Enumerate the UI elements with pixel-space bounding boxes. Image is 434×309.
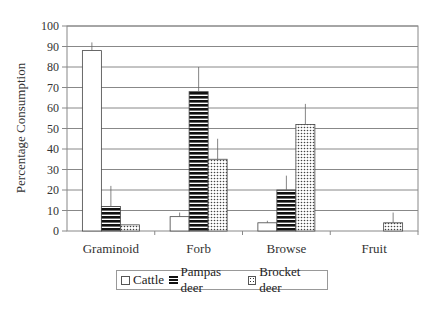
brocket-deer-swatch-icon <box>248 276 257 285</box>
gridlines <box>67 26 418 211</box>
legend-label: Pampas deer <box>181 264 243 296</box>
bar <box>384 223 403 231</box>
y-tick-label: 0 <box>53 224 59 238</box>
category-label: Fruit <box>361 241 387 256</box>
category-label: Browse <box>267 241 307 256</box>
category-label: Forb <box>186 241 211 256</box>
y-tick-label: 100 <box>41 19 59 33</box>
cattle-swatch-icon <box>121 276 130 285</box>
y-tick-label: 10 <box>47 204 59 218</box>
category-label: Graminoid <box>83 241 140 256</box>
y-tick-label: 30 <box>47 163 59 177</box>
y-tick-label: 60 <box>47 101 59 115</box>
bar <box>82 51 101 231</box>
bar <box>120 225 139 231</box>
bars <box>82 42 402 231</box>
legend-label: Brocket deer <box>259 264 322 296</box>
y-tick-label: 70 <box>47 81 59 95</box>
y-tick-label: 90 <box>47 40 59 54</box>
bar-chart: 0102030405060708090100 GraminoidForbBrow… <box>0 0 434 309</box>
y-tick-label: 40 <box>47 142 59 156</box>
legend: Cattle Pampas deer Brocket deer <box>116 270 328 290</box>
x-axis-labels: GraminoidForbBrowseFruit <box>83 231 418 256</box>
bar <box>170 217 189 231</box>
bar <box>189 92 208 231</box>
y-tick-label: 50 <box>47 122 59 136</box>
y-axis-ticks: 0102030405060708090100 <box>41 19 67 238</box>
bar <box>296 124 315 231</box>
bar <box>101 206 120 231</box>
y-tick-label: 80 <box>47 60 59 74</box>
legend-item-brocket-deer: Brocket deer <box>248 264 322 296</box>
bar <box>208 159 227 231</box>
pampas-deer-swatch-icon <box>169 276 177 285</box>
y-axis-label: Percentage Consumption <box>13 62 28 193</box>
legend-item-cattle: Cattle <box>121 272 164 288</box>
y-tick-label: 20 <box>47 183 59 197</box>
legend-label: Cattle <box>133 272 164 288</box>
bar <box>277 190 296 231</box>
bar <box>258 223 277 231</box>
legend-item-pampas-deer: Pampas deer <box>169 264 243 296</box>
